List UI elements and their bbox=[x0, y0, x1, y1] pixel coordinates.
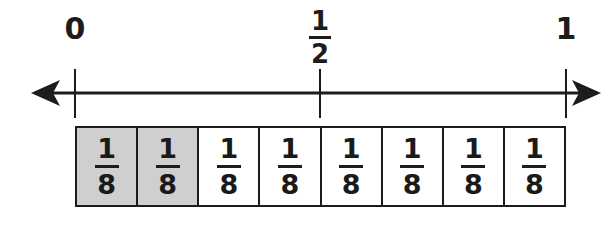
fraction-numerator: 1 bbox=[158, 135, 177, 162]
fraction-bar-line bbox=[522, 165, 546, 168]
fraction-denominator: 8 bbox=[97, 171, 116, 198]
fraction-bar-line bbox=[156, 165, 180, 168]
fraction-denominator: 8 bbox=[464, 171, 483, 198]
fraction-denominator: 8 bbox=[342, 171, 361, 198]
fraction-cell: 1 8 bbox=[444, 128, 505, 205]
fraction-cell: 1 8 bbox=[199, 128, 260, 205]
fraction-one-eighth: 1 8 bbox=[339, 135, 363, 198]
fraction-bar-line bbox=[461, 165, 485, 168]
fraction-one-eighth: 1 8 bbox=[522, 135, 546, 198]
fraction-numerator: 1 bbox=[464, 135, 483, 162]
fraction-cell: 1 8 bbox=[138, 128, 199, 205]
fraction-denominator: 8 bbox=[281, 171, 300, 198]
fraction-numerator: 1 bbox=[219, 135, 238, 162]
fraction-one-eighth: 1 8 bbox=[461, 135, 485, 198]
fraction-number-line-figure: 0 1 2 1 1 8 1 bbox=[0, 0, 612, 234]
fraction-numerator: 1 bbox=[281, 135, 300, 162]
fraction-bar-line bbox=[339, 165, 363, 168]
fraction-denominator: 8 bbox=[403, 171, 422, 198]
fraction-one-eighth: 1 8 bbox=[156, 135, 180, 198]
fraction-one-eighth: 1 8 bbox=[278, 135, 302, 198]
fraction-one-eighth: 1 8 bbox=[217, 135, 241, 198]
fraction-denominator: 8 bbox=[525, 171, 544, 198]
fraction-bar-line bbox=[95, 165, 119, 168]
fraction-denominator: 8 bbox=[158, 171, 177, 198]
fraction-numerator: 1 bbox=[342, 135, 361, 162]
fraction-cell: 1 8 bbox=[383, 128, 444, 205]
fraction-numerator: 1 bbox=[97, 135, 116, 162]
fraction-cell: 1 8 bbox=[260, 128, 321, 205]
fraction-bar-model: 1 8 1 8 1 8 1 8 bbox=[75, 126, 566, 207]
fraction-cell: 1 8 bbox=[77, 128, 138, 205]
fraction-one-eighth: 1 8 bbox=[95, 135, 119, 198]
fraction-denominator: 8 bbox=[219, 171, 238, 198]
fraction-numerator: 1 bbox=[525, 135, 544, 162]
fraction-cell: 1 8 bbox=[322, 128, 383, 205]
fraction-cell: 1 8 bbox=[505, 128, 564, 205]
fraction-one-eighth: 1 8 bbox=[400, 135, 424, 198]
fraction-bar-line bbox=[278, 165, 302, 168]
fraction-numerator: 1 bbox=[403, 135, 422, 162]
fraction-bar-line bbox=[217, 165, 241, 168]
fraction-bar-line bbox=[400, 165, 424, 168]
